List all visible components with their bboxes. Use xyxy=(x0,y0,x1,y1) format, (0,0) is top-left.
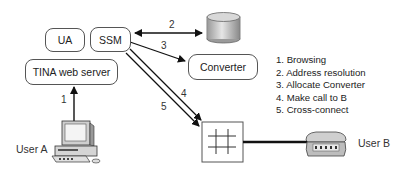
legend-item: 5. Cross-connect xyxy=(276,104,366,117)
edge-label-2: 2 xyxy=(169,19,175,30)
user-b-label: User B xyxy=(358,137,390,149)
ssm-box: SSM xyxy=(90,27,131,52)
legend-item: 4. Make call to B xyxy=(276,92,366,105)
converter-label: Converter xyxy=(200,61,246,73)
user-a-label: User A xyxy=(16,143,48,155)
database-icon xyxy=(207,13,240,44)
telephone-icon xyxy=(306,132,346,156)
edge-label-5: 5 xyxy=(161,101,167,112)
steps-legend: 1. Browsing 2. Address resolution 3. All… xyxy=(276,54,366,117)
ssm-label: SSM xyxy=(99,34,122,46)
computer-icon xyxy=(52,121,100,163)
edge-label-3: 3 xyxy=(161,40,167,51)
converter-box: Converter xyxy=(188,54,258,80)
tina-web-server-box: TINA web server xyxy=(25,59,118,85)
switch-icon xyxy=(202,122,243,162)
ua-label: UA xyxy=(58,34,73,46)
edge-label-4: 4 xyxy=(181,88,187,99)
tina-web-server-label: TINA web server xyxy=(33,66,111,78)
legend-item: 3. Allocate Converter xyxy=(276,79,366,92)
edge-label-1: 1 xyxy=(61,94,67,105)
ua-box: UA xyxy=(45,28,85,52)
legend-item: 2. Address resolution xyxy=(276,67,366,80)
legend-item: 1. Browsing xyxy=(276,54,366,67)
